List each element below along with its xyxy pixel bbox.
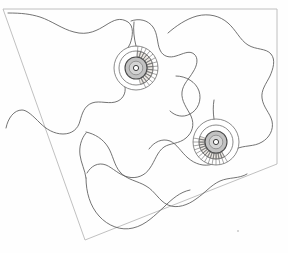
lower-right-rosette: [193, 100, 239, 165]
rosette-stem: [134, 22, 136, 46]
rosette-stem: [213, 100, 214, 119]
rosette-group: [114, 22, 239, 165]
quadrilateral-frame: [3, 9, 277, 240]
rosette-core-hole: [213, 139, 218, 144]
central-vertical-grain: [87, 20, 197, 178]
figure-canvas: [0, 0, 288, 253]
bottom-boundary-curve: [86, 178, 190, 229]
grain-boundary-group: [6, 13, 274, 229]
upper-left-rosette: [114, 22, 158, 90]
left-amoeboid-grain: [6, 13, 132, 134]
rosette-core-hole: [133, 65, 138, 70]
left-lower-boundary: [80, 133, 86, 178]
stray-speck: [237, 230, 239, 232]
inner-lens-loop: [170, 76, 200, 116]
petrographic-sketch-svg: [0, 0, 288, 253]
speck-group: [237, 230, 239, 232]
